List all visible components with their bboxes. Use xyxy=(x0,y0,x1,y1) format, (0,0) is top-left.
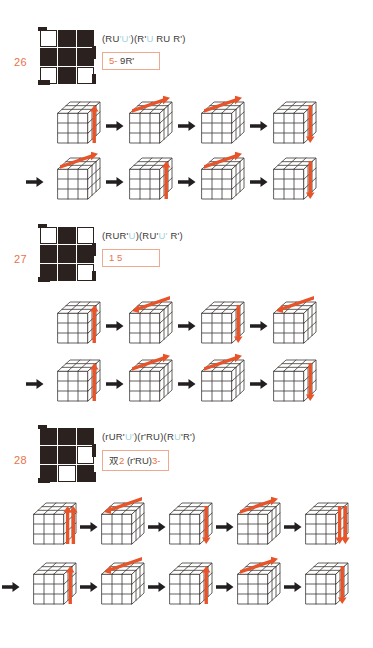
pattern-cell xyxy=(58,245,75,262)
sequence-arrow-icon xyxy=(178,378,196,390)
sequence-arrow-icon xyxy=(250,378,268,390)
cube-step xyxy=(196,152,250,204)
cube-step xyxy=(300,557,354,609)
formula-token: R') xyxy=(173,33,185,44)
formula-token: U xyxy=(129,230,136,241)
cube-step xyxy=(196,354,250,406)
sequence-arrow-icon xyxy=(250,176,268,188)
sequence-arrow-icon xyxy=(106,176,124,188)
cube-step xyxy=(268,152,322,204)
pattern-nub xyxy=(38,425,47,429)
cube-diagram xyxy=(196,152,250,204)
cube-diagram xyxy=(300,557,354,609)
cube-step xyxy=(52,152,106,204)
cube-diagram xyxy=(96,497,150,549)
cube-diagram xyxy=(52,152,106,204)
algorithm-formula: (rUR'U')(r'RU)(RU'R') xyxy=(102,431,195,442)
pattern-nub xyxy=(92,271,96,281)
pattern-nub xyxy=(92,472,96,482)
cube-step xyxy=(268,354,322,406)
cube-diagram xyxy=(232,557,286,609)
sequence-arrow xyxy=(2,581,20,593)
pattern-cell xyxy=(77,227,94,244)
sequence-arrow xyxy=(106,320,124,332)
pattern-cell xyxy=(40,48,57,65)
cube-step xyxy=(52,96,106,148)
sequence-arrow xyxy=(106,378,124,390)
formula-token: (RUR' xyxy=(102,230,129,241)
cube-diagram xyxy=(52,354,106,406)
formula-token: U' xyxy=(125,431,134,442)
sequence-arrow-icon xyxy=(250,120,268,132)
algorithm-sheet: 26(RU'U')(R'U RU R')5- 9R'27(RUR'U)(RU'U… xyxy=(0,0,373,648)
formula-token: R') xyxy=(168,230,183,241)
pattern-cell xyxy=(58,264,75,281)
pattern-nub xyxy=(38,27,47,31)
cube-sequence-row xyxy=(0,557,373,615)
note-token: 3- xyxy=(152,455,160,466)
pattern-grid xyxy=(40,30,94,84)
note-token: 9R' xyxy=(117,55,134,66)
formula-token: 'U' xyxy=(120,33,131,44)
cube-step xyxy=(268,96,322,148)
entry-number: 27 xyxy=(14,253,27,265)
sequence-arrow-icon xyxy=(106,120,124,132)
formula-token: RU xyxy=(153,33,170,44)
formula-token: U xyxy=(174,431,181,442)
note-token: 5 xyxy=(114,252,122,263)
note-box: 5- 9R' xyxy=(102,52,160,70)
cube-diagram xyxy=(268,296,322,348)
pattern-nub xyxy=(38,80,50,85)
sequence-arrow-icon xyxy=(250,320,268,332)
cube-step xyxy=(96,497,150,549)
cube-diagram xyxy=(196,354,250,406)
cube-diagram xyxy=(164,557,218,609)
cube-sequence-row xyxy=(0,296,373,352)
sequence-arrow xyxy=(250,378,268,390)
cube-step xyxy=(28,557,82,609)
pattern-nub xyxy=(38,277,50,282)
pattern-nub xyxy=(38,478,50,483)
sequence-arrow xyxy=(178,176,196,188)
cube-diagram xyxy=(124,152,178,204)
cube-step xyxy=(196,296,250,348)
cube-diagram xyxy=(124,296,178,348)
cube-diagram xyxy=(268,96,322,148)
cube-step xyxy=(52,354,106,406)
sequence-arrow xyxy=(250,176,268,188)
cube-step xyxy=(124,354,178,406)
pattern-cell xyxy=(58,465,75,482)
pattern-nub xyxy=(92,243,96,256)
cube-step xyxy=(124,296,178,348)
formula-token: 'R') xyxy=(181,431,195,442)
formula-token: U' xyxy=(159,230,168,241)
pattern-cell xyxy=(40,245,57,262)
pattern-nub xyxy=(92,74,96,84)
cube-diagram xyxy=(196,296,250,348)
sequence-arrow xyxy=(26,378,44,390)
note-token: (r'RU) xyxy=(124,455,152,466)
cube-step xyxy=(164,497,218,549)
cube-diagram xyxy=(268,152,322,204)
pattern-nub xyxy=(92,46,96,59)
cube-step xyxy=(52,296,106,348)
pattern-cell xyxy=(58,48,75,65)
sequence-arrow xyxy=(106,176,124,188)
cube-sequence-row xyxy=(0,96,373,152)
formula-token: )(r'RU)(R xyxy=(134,431,174,442)
pattern-cell xyxy=(40,30,57,47)
note-box: 1 5 xyxy=(102,249,160,267)
sequence-arrow-icon xyxy=(178,120,196,132)
cube-sequence-row xyxy=(0,152,373,208)
cube-step xyxy=(164,557,218,609)
formula-token: )(RU' xyxy=(136,230,159,241)
sequence-arrow-icon xyxy=(178,320,196,332)
pattern-cell xyxy=(40,428,57,445)
sequence-arrow xyxy=(178,378,196,390)
note-token: 双 xyxy=(109,455,119,466)
cube-diagram xyxy=(196,96,250,148)
entry-number: 26 xyxy=(14,56,27,68)
cube-diagram xyxy=(52,96,106,148)
cube-step xyxy=(196,96,250,148)
pattern-grid xyxy=(40,428,94,482)
